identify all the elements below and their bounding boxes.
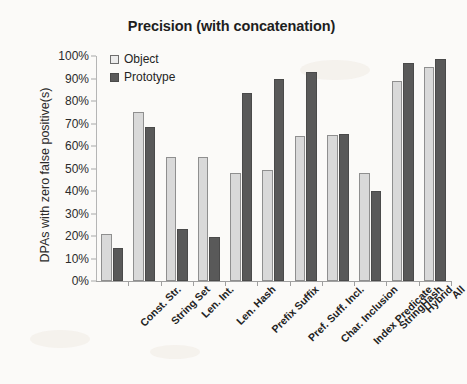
chart-legend: Object Prototype xyxy=(110,52,175,88)
bar-prototype xyxy=(435,59,446,281)
y-axis-tick-label: 100% xyxy=(58,49,89,63)
y-axis-tick-label: 90% xyxy=(65,72,89,86)
bar-prototype xyxy=(177,229,188,281)
bar-object xyxy=(230,173,241,281)
bar-group xyxy=(193,56,225,281)
bar-object xyxy=(101,234,112,281)
chart-title: Precision (with concatenation) xyxy=(0,18,463,34)
bar-group xyxy=(419,56,451,281)
legend-item-prototype: Prototype xyxy=(110,70,175,84)
bar-object xyxy=(133,112,144,281)
bar-group xyxy=(322,56,354,281)
bar-group xyxy=(386,56,418,281)
bar-prototype xyxy=(306,72,317,281)
x-axis-tick-mark xyxy=(451,281,452,286)
bars-layer xyxy=(96,56,451,281)
bar-prototype xyxy=(339,134,350,281)
bar-prototype xyxy=(113,248,124,281)
bar-prototype xyxy=(403,63,414,281)
bar-prototype xyxy=(242,93,253,281)
bar-prototype xyxy=(145,127,156,281)
bar-group xyxy=(225,56,257,281)
bar-prototype xyxy=(371,191,382,281)
bar-object xyxy=(198,157,209,281)
bar-object xyxy=(424,67,435,281)
bar-group xyxy=(96,56,128,281)
bar-object xyxy=(327,135,338,281)
bar-object xyxy=(359,173,370,281)
bar-group xyxy=(161,56,193,281)
legend-swatch-object-icon xyxy=(110,55,119,64)
y-axis-tick-label: 0% xyxy=(72,274,89,288)
bar-prototype xyxy=(274,79,285,282)
y-axis-tick-label: 50% xyxy=(65,162,89,176)
bar-object xyxy=(392,81,403,281)
bar-group xyxy=(354,56,386,281)
x-axis-category-labels: Const. Str.String SetLen. Int.Len. HashP… xyxy=(96,283,451,383)
bar-object xyxy=(166,157,177,281)
y-axis-title: DPAs with zero false positive(s) xyxy=(38,50,52,300)
bar-prototype xyxy=(209,237,220,281)
bar-group xyxy=(128,56,160,281)
legend-label-prototype: Prototype xyxy=(124,70,175,84)
bar-object xyxy=(295,136,306,281)
x-axis-line xyxy=(96,281,451,282)
bar-group xyxy=(290,56,322,281)
legend-swatch-prototype-icon xyxy=(110,73,119,82)
bar-object xyxy=(262,170,273,281)
legend-label-object: Object xyxy=(124,52,159,66)
legend-item-object: Object xyxy=(110,52,175,66)
y-axis-tick-label: 80% xyxy=(65,94,89,108)
bar-group xyxy=(257,56,289,281)
y-axis-tick-label: 10% xyxy=(65,252,89,266)
y-axis-tick-label: 30% xyxy=(65,207,89,221)
y-axis-tick-label: 60% xyxy=(65,139,89,153)
x-axis-category-label: Len. Hash xyxy=(234,283,278,327)
plot-area: 0%10%20%30%40%50%60%70%80%90%100% xyxy=(96,56,451,281)
y-axis-tick-label: 20% xyxy=(65,229,89,243)
y-axis-tick-label: 70% xyxy=(65,117,89,131)
y-axis-tick-label: 40% xyxy=(65,184,89,198)
